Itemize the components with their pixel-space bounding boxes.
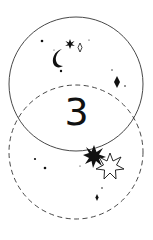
numeral-three: 3	[0, 92, 153, 132]
large-filled-starburst-icon	[83, 145, 106, 168]
filled-diamond-icon	[114, 76, 120, 88]
outline-diamond-icon	[78, 43, 82, 52]
small-starburst-icon	[65, 39, 75, 49]
small-diamond-icon	[95, 194, 98, 201]
crescent-moon-icon	[53, 49, 63, 67]
